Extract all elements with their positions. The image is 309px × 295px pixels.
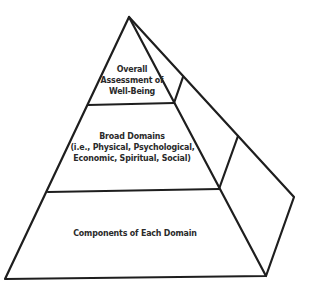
tier-middle-line-2: (i.e., Physical, Psychological, [70, 142, 193, 153]
tier-middle-label: Broad Domains (i.e., Physical, Psycholog… [70, 131, 193, 164]
tier-top-line-1: Overall [90, 64, 174, 75]
tier-bottom-line-1: Components of Each Domain [69, 228, 201, 239]
top-tier-divider [88, 103, 174, 105]
tier-top-line-2: Assessment of [90, 75, 174, 86]
middle-tier-side-divider [219, 136, 238, 189]
tier-top-label: Overall Assessment of Well-Being [90, 64, 174, 97]
tier-middle-line-3: Economic, Spiritual, Social) [70, 153, 193, 164]
tier-bottom-label: Components of Each Domain [69, 228, 201, 239]
top-tier-side-divider [174, 77, 183, 103]
middle-tier-divider [48, 189, 219, 192]
tier-middle-line-1: Broad Domains [70, 131, 193, 142]
tier-top-line-3: Well-Being [90, 86, 174, 97]
